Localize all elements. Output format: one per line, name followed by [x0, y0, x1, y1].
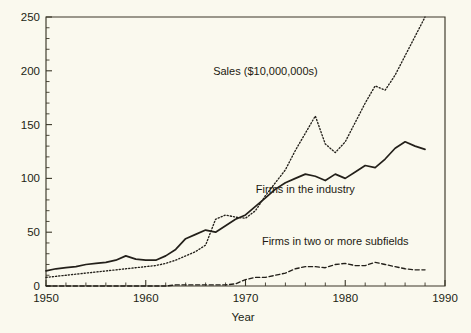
y-tick-label: 100 [21, 172, 40, 184]
series-label: Firms in the industry [256, 183, 356, 195]
x-tick-label: 1990 [432, 292, 458, 304]
y-tick-label: 0 [34, 280, 40, 292]
series-label: Sales ($10,000,000s) [213, 65, 318, 77]
x-tick-label: 1960 [133, 292, 159, 304]
y-tick-label: 150 [21, 119, 40, 131]
x-tick-label: 1970 [233, 292, 259, 304]
series-line-dashed [46, 262, 425, 286]
chart-container: 05010015020025019501960197019801990 Sale… [0, 0, 471, 333]
x-tick-label: 1980 [332, 292, 358, 304]
x-tick-label: 1950 [33, 292, 59, 304]
y-tick-label: 50 [27, 226, 40, 238]
x-axis-title: Year [231, 311, 254, 323]
series-label: Firms in two or more subfields [262, 235, 409, 247]
y-tick-label: 200 [21, 65, 40, 77]
series-line-solid [46, 142, 425, 271]
line-chart: 05010015020025019501960197019801990 Sale… [0, 0, 471, 333]
chart-tick-labels: 05010015020025019501960197019801990 [21, 11, 458, 304]
y-tick-label: 250 [21, 11, 40, 23]
chart-series-labels: Sales ($10,000,000s)Firms in the industr… [213, 65, 409, 247]
